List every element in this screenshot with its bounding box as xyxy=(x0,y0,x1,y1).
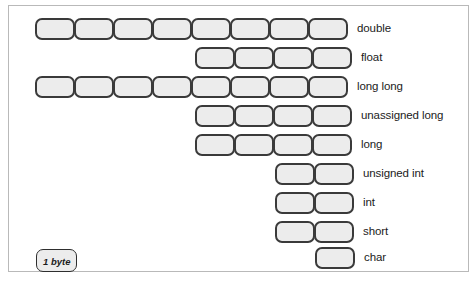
type-row: double xyxy=(35,17,391,41)
byte-cell xyxy=(275,192,315,214)
type-row: int xyxy=(275,191,375,215)
byte-cell xyxy=(273,105,313,127)
byte-cell xyxy=(74,18,114,40)
byte-cell xyxy=(315,247,355,269)
byte-cell xyxy=(152,76,192,98)
byte-cell xyxy=(195,134,235,156)
type-label: int xyxy=(363,197,375,209)
byte-cell xyxy=(308,76,348,98)
byte-cell xyxy=(275,221,315,243)
type-row: unsigned int xyxy=(275,162,424,186)
byte-cell xyxy=(312,47,352,69)
legend-label: 1 byte xyxy=(43,256,70,267)
byte-cell xyxy=(35,76,75,98)
type-row: long xyxy=(195,133,382,157)
type-label: short xyxy=(363,226,388,238)
byte-cell-group xyxy=(195,105,352,127)
byte-cell-group xyxy=(275,221,354,243)
byte-cell-group xyxy=(195,47,352,69)
type-label: float xyxy=(361,52,382,64)
byte-size-chart: doublefloatlong longunassigned longlongu… xyxy=(9,6,468,271)
byte-cell xyxy=(195,105,235,127)
type-row: float xyxy=(195,46,382,70)
byte-cell-group xyxy=(275,163,354,185)
byte-cell xyxy=(152,18,192,40)
legend-byte-box: 1 byte xyxy=(36,249,77,272)
byte-cell xyxy=(273,134,313,156)
type-label: char xyxy=(364,252,386,264)
byte-cell xyxy=(74,76,114,98)
legend: 1 byte xyxy=(36,249,77,272)
byte-cell xyxy=(195,47,235,69)
type-label: long xyxy=(361,139,382,151)
byte-cell xyxy=(35,18,75,40)
diagram-frame: doublefloatlong longunassigned longlongu… xyxy=(8,5,469,272)
byte-cell xyxy=(230,76,270,98)
byte-cell-group xyxy=(35,18,348,40)
type-row: char xyxy=(315,246,386,270)
type-row: unassigned long xyxy=(195,104,443,128)
byte-cell xyxy=(113,18,153,40)
type-row: long long xyxy=(35,75,403,99)
byte-cell xyxy=(234,134,274,156)
byte-cell-group xyxy=(275,192,354,214)
byte-cell xyxy=(314,192,354,214)
byte-cell-group xyxy=(315,247,355,269)
byte-cell-group xyxy=(195,134,352,156)
byte-cell xyxy=(275,163,315,185)
byte-cell xyxy=(191,76,231,98)
byte-cell xyxy=(191,18,231,40)
byte-cell-group xyxy=(35,76,348,98)
byte-cell xyxy=(230,18,270,40)
byte-cell xyxy=(314,221,354,243)
type-row: short xyxy=(275,220,388,244)
type-label: unassigned long xyxy=(361,110,443,122)
byte-cell xyxy=(312,105,352,127)
byte-cell xyxy=(234,47,274,69)
byte-cell xyxy=(308,18,348,40)
type-label: unsigned int xyxy=(363,168,424,180)
type-label: double xyxy=(357,23,391,35)
byte-cell xyxy=(113,76,153,98)
type-label: long long xyxy=(357,81,403,93)
byte-cell xyxy=(269,76,309,98)
byte-cell xyxy=(273,47,313,69)
byte-cell xyxy=(312,134,352,156)
byte-cell xyxy=(314,163,354,185)
byte-cell xyxy=(269,18,309,40)
byte-cell xyxy=(234,105,274,127)
